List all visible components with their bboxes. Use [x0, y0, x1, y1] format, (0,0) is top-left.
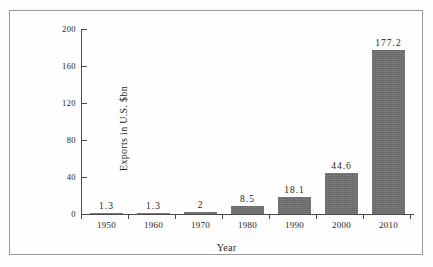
y-tick-120 [81, 103, 87, 104]
y-tick-40 [81, 177, 87, 178]
bar-1950 [90, 213, 123, 214]
y-tick-label-0: 0 [40, 209, 76, 219]
y-tick-label-80-wrap: 80 [36, 135, 76, 145]
y-tick-label-40: 40 [40, 172, 76, 182]
bar-1970 [184, 212, 217, 214]
figure-canvas: 200 160 120 80 40 0 Exports in U.S. $bn [0, 0, 433, 267]
x-tick-6 [363, 214, 364, 219]
bar-2000 [325, 173, 358, 214]
bar-value-1990: 18.1 [266, 185, 324, 195]
x-tick-label-1990: 1990 [272, 220, 318, 230]
x-tick-label-2000: 2000 [319, 220, 365, 230]
x-tick-label-1950: 1950 [84, 220, 130, 230]
x-tick-label-1970: 1970 [178, 220, 224, 230]
y-tick-label-40-wrap: 40 [36, 172, 76, 182]
bar-1980 [231, 206, 264, 214]
y-tick-80 [81, 140, 87, 141]
y-tick-label-120: 120 [40, 98, 76, 108]
y-tick-label-80: 80 [40, 135, 76, 145]
y-tick-label-120-wrap: 120 [36, 98, 76, 108]
x-tick-3 [222, 214, 223, 219]
x-tick-right-edge [410, 214, 411, 219]
y-tick-label-160: 160 [40, 61, 76, 71]
x-tick-label-1960: 1960 [131, 220, 177, 230]
x-tick-1 [128, 214, 129, 219]
x-tick-label-1980: 1980 [225, 220, 271, 230]
y-axis-title-holder: Exports in U.S. $bn [98, 31, 99, 32]
bar-1990 [278, 197, 311, 214]
x-tick-left-edge [81, 214, 82, 219]
y-tick-200 [81, 29, 87, 30]
bar-1960 [137, 213, 170, 214]
y-tick-label-200-wrap: 200 [36, 24, 76, 34]
y-axis-title: Exports in U.S. $bn [118, 44, 129, 214]
y-tick-160 [81, 66, 87, 67]
x-tick-label-2010: 2010 [366, 220, 412, 230]
y-tick-label-160-wrap: 160 [36, 61, 76, 71]
bar-value-2010: 177.2 [360, 38, 418, 48]
bar-value-1980: 8.5 [219, 194, 277, 204]
y-axis-line [81, 29, 82, 215]
y-tick-label-0-wrap: 0 [36, 209, 76, 219]
x-axis-title: Year [10, 242, 433, 253]
x-tick-4 [269, 214, 270, 219]
bar-value-2000: 44.6 [313, 161, 371, 171]
bar-2010 [372, 50, 405, 214]
x-tick-5 [316, 214, 317, 219]
figure-frame: 200 160 120 80 40 0 Exports in U.S. $bn [9, 10, 423, 255]
y-tick-label-200: 200 [40, 24, 76, 34]
x-axis-line [81, 214, 414, 215]
x-tick-2 [175, 214, 176, 219]
